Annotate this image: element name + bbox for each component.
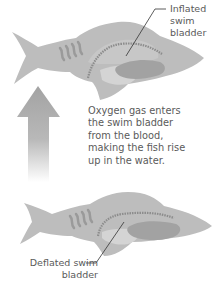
- fish-body: [20, 192, 212, 256]
- label-line: swim: [170, 15, 222, 27]
- deflated-swim-bladder-label: Deflated swim bladder: [10, 257, 98, 281]
- label-line: Deflated swim: [10, 257, 98, 269]
- caption-line: up in the water.: [88, 155, 218, 167]
- explanation-caption: Oxygen gas enters the swim bladder from …: [88, 105, 218, 167]
- up-arrow: [17, 86, 60, 182]
- label-line: Inflated: [170, 3, 222, 15]
- fish-deflated: [20, 192, 212, 256]
- label-line: bladder: [170, 27, 222, 39]
- caption-line: Oxygen gas enters: [88, 105, 218, 117]
- inflated-swim-bladder-label: Inflated swim bladder: [170, 3, 222, 39]
- label-line: bladder: [10, 269, 98, 281]
- caption-line: the swim bladder: [88, 117, 218, 129]
- caption-line: from the blood,: [88, 130, 218, 142]
- caption-line: making the fish rise: [88, 142, 218, 154]
